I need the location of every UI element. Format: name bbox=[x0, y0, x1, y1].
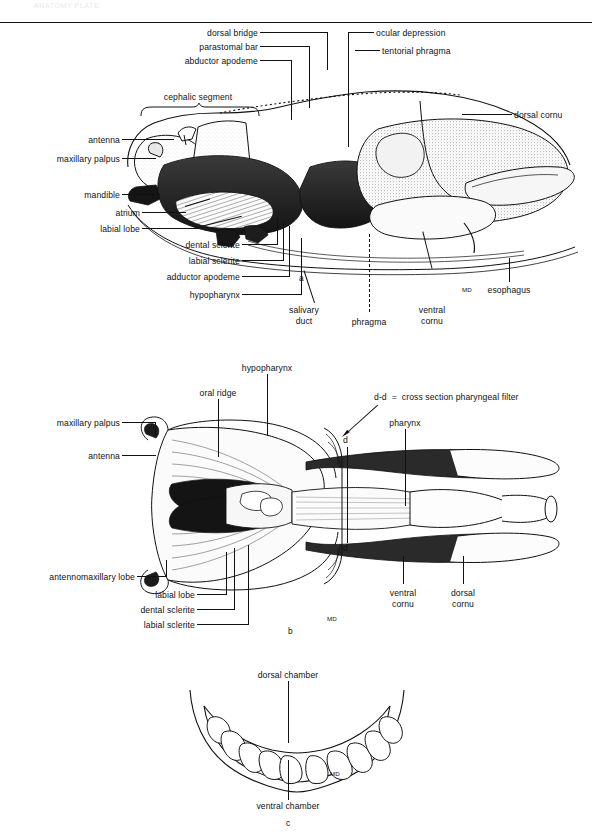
label-labial-lobe-a: labial lobe bbox=[100, 224, 140, 234]
label-oral-ridge: oral ridge bbox=[200, 388, 237, 398]
leader-ventral-chamber bbox=[288, 760, 289, 800]
leader-dorsal-bridge-h bbox=[260, 32, 328, 33]
label-pharynx: pharynx bbox=[389, 418, 420, 428]
label-ventral-cornu-a: ventral cornu bbox=[419, 305, 446, 326]
leader-abductor-apodeme-v bbox=[291, 60, 292, 120]
label-antenna-b: antenna bbox=[88, 451, 120, 461]
leader-maxillary-palpus-b-v bbox=[155, 422, 156, 436]
label-section-marker-bottom: d bbox=[343, 543, 348, 553]
label-section-key: d-d = cross section pharyngeal filter bbox=[374, 392, 519, 402]
leader-labial-lobe-a-h bbox=[142, 228, 202, 229]
leader-phragma-dashed bbox=[369, 234, 370, 312]
leader-tentorial-phragma-h bbox=[355, 50, 380, 51]
leader-adductor-apodeme-a-h bbox=[242, 276, 290, 277]
leader-oral-ridge bbox=[218, 399, 219, 457]
leader-ocular-depression-h bbox=[348, 32, 374, 33]
label-cephalic-segment: cephalic segment bbox=[164, 92, 232, 102]
label-maxillary-palpus-b: maxillary palpus bbox=[57, 418, 120, 428]
label-labial-sclerite-b: labial sclerite bbox=[144, 620, 195, 630]
leader-hypopharynx-a-v bbox=[301, 238, 302, 294]
leader-parastomal-bar-v bbox=[309, 46, 310, 108]
label-ocular-depression: ocular depression bbox=[376, 28, 446, 38]
leader-labial-lobe-b-h bbox=[197, 594, 227, 595]
label-mandible-a: mandible bbox=[84, 190, 120, 200]
label-adductor-apodeme-a: adductor apodeme bbox=[167, 272, 240, 282]
leader-adductor-apodeme-a-v bbox=[289, 226, 290, 276]
running-header: ANATOMY PLATE bbox=[34, 2, 99, 9]
label-hypopharynx-a: hypopharynx bbox=[190, 290, 240, 300]
leader-dental-sclerite-b-v bbox=[234, 548, 235, 609]
label-salivary-duct: salivary duct bbox=[289, 305, 319, 326]
leader-labial-sclerite-b-h bbox=[197, 624, 249, 625]
leader-esophagus bbox=[509, 258, 510, 282]
leader-dorsal-bridge-v bbox=[327, 32, 328, 70]
label-dorsal-cornu-b: dorsal cornu bbox=[451, 588, 475, 609]
label-phragma: phragma bbox=[352, 317, 387, 327]
label-dental-sclerite-b: dental sclerite bbox=[140, 605, 195, 615]
label-antennomaxillary-lobe: antennomaxillary lobe bbox=[49, 572, 135, 582]
label-tentorial-phragma: tentorial phragma bbox=[382, 46, 451, 56]
panel-letter-b: b bbox=[288, 626, 293, 636]
label-abductor-apodeme: abductor apodeme bbox=[185, 56, 258, 66]
leader-antennomaxillary-lobe-v bbox=[166, 560, 167, 576]
leader-maxillary-palpus-b-h bbox=[122, 422, 156, 423]
leader-atrium-a-h bbox=[142, 212, 186, 213]
label-labial-sclerite-a: labial sclerite bbox=[189, 256, 240, 266]
label-dental-sclerite-a: dental sclerite bbox=[185, 240, 240, 250]
leader-abductor-apodeme-h bbox=[260, 60, 292, 61]
label-dorsal-chamber: dorsal chamber bbox=[258, 670, 319, 680]
leader-dental-sclerite-a-h bbox=[242, 244, 278, 245]
leader-labial-sclerite-a-h bbox=[242, 260, 284, 261]
label-dorsal-cornu-a: dorsal cornu bbox=[514, 110, 563, 120]
leader-antenna-b bbox=[122, 455, 156, 456]
leader-dental-sclerite-a-v bbox=[277, 218, 278, 244]
leader-ocular-depression-v bbox=[348, 32, 349, 147]
leader-dental-sclerite-b-h bbox=[197, 609, 235, 610]
label-maxillary-palpus-a: maxillary palpus bbox=[57, 154, 120, 164]
label-esophagus: esophagus bbox=[488, 285, 531, 295]
leader-section-dd bbox=[347, 447, 348, 543]
leader-dorsal-cornu-b bbox=[463, 556, 464, 584]
panel-c-artwork bbox=[186, 688, 408, 798]
label-dorsal-bridge: dorsal bridge bbox=[207, 28, 258, 38]
label-section-marker-top: d bbox=[343, 435, 348, 445]
label-atrium-a: atrium bbox=[116, 208, 140, 218]
leader-pharynx bbox=[405, 429, 406, 506]
label-ventral-chamber: ventral chamber bbox=[256, 801, 319, 811]
leader-labial-sclerite-b-v bbox=[248, 545, 249, 624]
label-hypopharynx-b: hypopharynx bbox=[242, 363, 292, 373]
label-ventral-cornu-b: ventral cornu bbox=[390, 588, 417, 609]
leader-maxillary-palpus-a bbox=[122, 158, 156, 159]
panel-letter-a: a bbox=[299, 273, 304, 283]
leader-dorsal-chamber bbox=[288, 681, 289, 743]
leader-labial-sclerite-a-v bbox=[283, 222, 284, 260]
top-rule bbox=[0, 22, 592, 23]
figure-plate: ANATOMY PLATE bbox=[0, 0, 592, 840]
leader-parastomal-bar-h bbox=[260, 46, 310, 47]
label-antenna-a: antenna bbox=[88, 135, 120, 145]
md-marker-c: MD bbox=[330, 770, 340, 777]
leader-labial-lobe-b-v bbox=[226, 552, 227, 594]
leader-hypopharynx-b bbox=[267, 374, 268, 436]
leader-hypopharynx-a-h bbox=[242, 294, 302, 295]
leader-ventral-cornu-b bbox=[403, 556, 404, 584]
bracket-cephalic-segment bbox=[140, 102, 260, 118]
label-labial-lobe-b: labial lobe bbox=[155, 590, 195, 600]
md-marker-b: MD bbox=[327, 615, 337, 622]
label-parastomal-bar: parastomal bar bbox=[199, 42, 258, 52]
md-marker-a: MD bbox=[462, 286, 472, 293]
leader-mandible-a bbox=[122, 194, 160, 195]
leader-antenna-a bbox=[122, 139, 174, 140]
leader-dorsal-cornu-a bbox=[462, 114, 512, 115]
leader-antennomaxillary-lobe-h bbox=[137, 576, 167, 577]
panel-letter-c: c bbox=[286, 818, 290, 828]
